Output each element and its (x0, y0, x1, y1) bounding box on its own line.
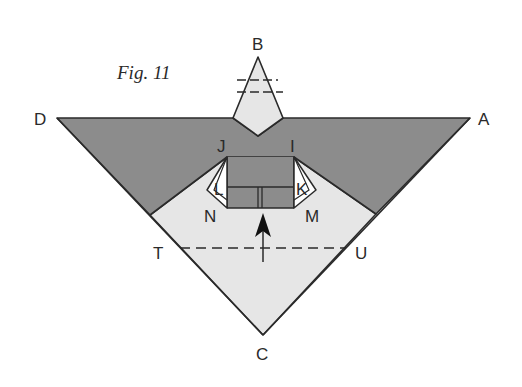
label-A: A (478, 110, 490, 129)
label-M: M (305, 207, 319, 226)
label-D: D (34, 110, 46, 129)
origami-diagram: Fig. 11 B D A J I L K N M T U C (0, 0, 522, 387)
label-J: J (217, 137, 226, 156)
label-T: T (153, 244, 163, 263)
label-L: L (214, 180, 223, 199)
figure-caption: Fig. 11 (116, 62, 170, 83)
label-N: N (204, 207, 216, 226)
center-rectangle (227, 157, 294, 208)
point-B-flap (233, 57, 283, 136)
label-K: K (296, 180, 308, 199)
label-I: I (290, 137, 295, 156)
label-B: B (252, 35, 263, 54)
label-U: U (355, 244, 367, 263)
label-C: C (256, 345, 268, 364)
